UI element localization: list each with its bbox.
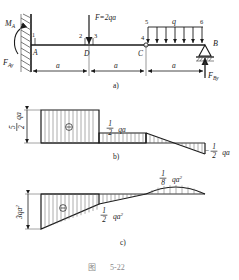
bending-moment-diagram: 3qa2 1 2 qa2 1 8 qa2 c) xyxy=(15,169,205,247)
point-c-label: C xyxy=(138,49,144,58)
svg-text:qa: qa xyxy=(222,148,230,157)
svg-text:2: 2 xyxy=(212,151,216,160)
distributed-load xyxy=(148,27,203,43)
svg-text:5: 5 xyxy=(8,125,17,129)
point-b-label: B xyxy=(213,39,218,48)
caption-prefix: 图 xyxy=(88,263,96,272)
section-2-label: 2 xyxy=(79,32,82,39)
section-1-label: 1 xyxy=(32,32,35,38)
dimension-dc-label: a xyxy=(114,61,118,70)
svg-text:3qa2: 3qa2 xyxy=(15,205,24,220)
right-vertical-reaction-label: FBy xyxy=(207,71,219,81)
load-diagram: MA FAy 1 A F=2qa 2 3 D C 4 xyxy=(2,13,219,90)
point-a-label: A xyxy=(32,48,38,57)
concentrated-load-label: F=2qa xyxy=(94,13,116,22)
shear-region-cb xyxy=(146,133,205,154)
dimension-cb-label: a xyxy=(172,61,176,70)
figure-caption: 图 5-22 xyxy=(88,263,125,272)
shear-left-dimension xyxy=(24,110,41,143)
svg-text:1: 1 xyxy=(212,142,216,151)
svg-text:1: 1 xyxy=(161,169,165,178)
moment-peak-value-label: 1 8 qa2 xyxy=(160,169,183,187)
moment-mid-value-label: 1 2 qa2 xyxy=(101,206,124,224)
panel-a-label: a) xyxy=(113,81,119,90)
svg-text:2: 2 xyxy=(17,125,26,129)
distributed-load-label: q xyxy=(172,17,176,26)
left-vertical-reaction-label: FAy xyxy=(2,58,14,68)
section-3-label: 3 xyxy=(94,32,97,39)
mechanics-figure: MA FAy 1 A F=2qa 2 3 D C 4 xyxy=(0,0,239,280)
shear-right-value-label: − 1 2 qa xyxy=(204,142,230,160)
shear-region-ad xyxy=(41,110,99,143)
caption-number: 5-22 xyxy=(110,263,125,272)
svg-text:2: 2 xyxy=(108,128,112,137)
moment-left-value-label: 3qa2 xyxy=(15,205,24,220)
svg-text:−: − xyxy=(204,146,209,155)
moment-reaction-label: MA xyxy=(4,19,16,29)
dimension-ad-label: a xyxy=(56,61,60,70)
shear-region-dc xyxy=(99,133,146,143)
section-4-label: 4 xyxy=(141,34,145,41)
svg-text:qa2: qa2 xyxy=(172,175,183,184)
svg-text:qa: qa xyxy=(118,125,126,134)
svg-text:1: 1 xyxy=(102,206,106,215)
moment-region-dc xyxy=(99,194,146,204)
section-6-label: 6 xyxy=(200,18,204,25)
fixed-wall-support xyxy=(21,14,31,72)
svg-text:2: 2 xyxy=(102,215,106,224)
panel-b-label: b) xyxy=(113,152,120,161)
moment-region-ad xyxy=(41,194,99,229)
panel-c-label: c) xyxy=(120,238,126,247)
svg-text:1: 1 xyxy=(108,119,112,128)
shear-force-diagram: 5 2 qa 1 2 qa − 1 2 qa b) xyxy=(8,110,230,161)
moment-left-dimension xyxy=(25,194,41,229)
moment-reaction-arrow xyxy=(14,29,20,54)
section-5-label: 5 xyxy=(145,18,148,25)
svg-text:qa2: qa2 xyxy=(113,212,124,221)
svg-text:qa: qa xyxy=(14,112,23,120)
svg-text:8: 8 xyxy=(161,178,165,187)
moment-region-cb xyxy=(146,185,205,194)
shear-left-value-label: 5 2 qa xyxy=(8,112,26,131)
